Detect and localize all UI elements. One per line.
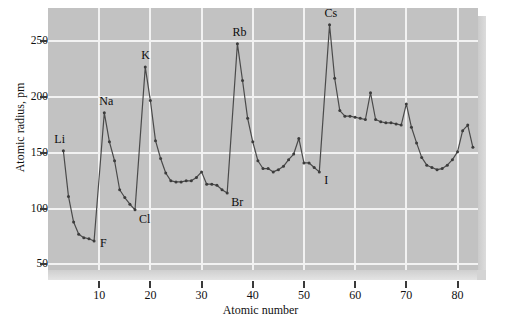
data-point-marker bbox=[103, 111, 106, 114]
data-point-marker bbox=[256, 159, 259, 162]
panel-right-bevel bbox=[477, 16, 486, 278]
point-label-k: K bbox=[141, 49, 150, 61]
data-point-marker bbox=[415, 141, 418, 144]
point-label-br: Br bbox=[231, 196, 243, 208]
data-point-marker bbox=[297, 137, 300, 140]
data-point-marker bbox=[461, 129, 464, 132]
data-point-marker bbox=[128, 203, 131, 206]
data-point-marker bbox=[251, 140, 254, 143]
data-point-marker bbox=[308, 161, 311, 164]
data-point-marker bbox=[333, 77, 336, 80]
data-point-marker bbox=[272, 170, 275, 173]
data-point-marker bbox=[302, 161, 305, 164]
data-point-marker bbox=[123, 196, 126, 199]
data-point-marker bbox=[174, 180, 177, 183]
data-point-marker bbox=[113, 159, 116, 162]
data-point-marker bbox=[154, 139, 157, 142]
data-point-marker bbox=[446, 164, 449, 167]
data-point-marker bbox=[338, 109, 341, 112]
data-point-marker bbox=[267, 167, 270, 170]
data-point-marker bbox=[108, 140, 111, 143]
data-point-marker bbox=[169, 179, 172, 182]
data-point-marker bbox=[144, 66, 147, 69]
point-label-li: Li bbox=[54, 133, 65, 145]
data-point-marker bbox=[195, 176, 198, 179]
panel-bottom-bevel bbox=[48, 270, 486, 280]
x-tick-label: 70 bbox=[386, 288, 426, 303]
data-point-marker bbox=[395, 122, 398, 125]
point-label-cs: Cs bbox=[325, 8, 338, 19]
data-point-marker bbox=[400, 124, 403, 127]
data-point-marker bbox=[451, 158, 454, 161]
y-tick-mark bbox=[40, 40, 47, 42]
data-point-marker bbox=[215, 184, 218, 187]
y-tick-mark bbox=[40, 96, 47, 98]
x-tick-mark bbox=[149, 281, 151, 288]
data-point-marker bbox=[328, 23, 331, 26]
data-point-marker bbox=[425, 164, 428, 167]
data-point-marker bbox=[379, 120, 382, 123]
data-point-marker bbox=[236, 42, 239, 45]
data-point-marker bbox=[200, 170, 203, 173]
data-point-marker bbox=[72, 221, 75, 224]
x-tick-mark bbox=[201, 281, 203, 288]
data-point-marker bbox=[292, 153, 295, 156]
y-tick-mark bbox=[40, 208, 47, 210]
data-polyline bbox=[63, 25, 473, 241]
data-point-marker bbox=[77, 233, 80, 236]
data-point-marker bbox=[389, 121, 392, 124]
data-point-marker bbox=[287, 158, 290, 161]
x-tick-label: 20 bbox=[130, 288, 170, 303]
data-line-layer bbox=[48, 8, 478, 270]
data-point-marker bbox=[410, 126, 413, 129]
y-axis-title: Atomic radius, pm bbox=[13, 48, 28, 208]
data-point-marker bbox=[87, 237, 90, 240]
data-point-marker bbox=[134, 208, 137, 211]
data-point-marker bbox=[405, 102, 408, 105]
data-point-marker bbox=[62, 149, 65, 152]
data-point-marker bbox=[456, 150, 459, 153]
data-point-marker bbox=[180, 180, 183, 183]
x-axis-title: Atomic number bbox=[0, 303, 521, 318]
point-label-i: I bbox=[324, 174, 328, 186]
x-tick-label: 80 bbox=[438, 288, 478, 303]
atomic-radius-chart-figure: LiFNaClKBrRbICs 50100150200250 102030405… bbox=[0, 0, 521, 323]
data-point-marker bbox=[93, 240, 96, 243]
x-tick-label: 40 bbox=[233, 288, 273, 303]
data-point-marker bbox=[118, 188, 121, 191]
data-point-marker bbox=[262, 167, 265, 170]
point-label-f: F bbox=[100, 237, 107, 249]
data-point-marker bbox=[159, 157, 162, 160]
data-point-marker bbox=[241, 79, 244, 82]
x-tick-mark bbox=[98, 281, 100, 288]
x-tick-mark bbox=[303, 281, 305, 288]
data-point-marker bbox=[313, 166, 316, 169]
data-point-marker bbox=[190, 179, 193, 182]
x-tick-label: 60 bbox=[335, 288, 375, 303]
data-point-marker bbox=[343, 115, 346, 118]
y-tick-mark bbox=[40, 152, 47, 154]
x-tick-mark bbox=[354, 281, 356, 288]
data-point-marker bbox=[471, 146, 474, 149]
data-point-marker bbox=[374, 118, 377, 121]
data-point-marker bbox=[384, 121, 387, 124]
data-point-marker bbox=[277, 168, 280, 171]
plot-area: LiFNaClKBrRbICs bbox=[48, 8, 478, 270]
point-label-rb: Rb bbox=[232, 26, 246, 38]
data-point-marker bbox=[205, 183, 208, 186]
x-tick-label: 50 bbox=[284, 288, 324, 303]
data-point-marker bbox=[282, 165, 285, 168]
data-point-marker bbox=[430, 166, 433, 169]
x-tick-mark bbox=[405, 281, 407, 288]
data-point-marker bbox=[185, 179, 188, 182]
x-tick-label: 10 bbox=[79, 288, 119, 303]
point-label-na: Na bbox=[99, 95, 113, 107]
y-tick-mark bbox=[40, 263, 47, 265]
point-label-cl: Cl bbox=[139, 213, 150, 225]
data-point-marker bbox=[67, 195, 70, 198]
data-point-marker bbox=[221, 188, 224, 191]
data-point-marker bbox=[436, 168, 439, 171]
data-point-marker bbox=[210, 183, 213, 186]
data-point-marker bbox=[149, 99, 152, 102]
x-tick-label: 30 bbox=[182, 288, 222, 303]
